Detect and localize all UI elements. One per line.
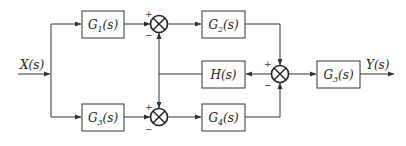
svg-text:+: + xyxy=(145,9,153,19)
svg-text:G4(s): G4(s) xyxy=(208,111,239,127)
svg-text:+: + xyxy=(264,59,272,69)
svg-text:G2(s): G2(s) xyxy=(208,18,239,34)
svg-text:G1(s): G1(s) xyxy=(88,18,119,34)
svg-text:H(s): H(s) xyxy=(210,68,237,82)
block-g1: G1(s) xyxy=(82,11,124,38)
wire-g2-to-s3 xyxy=(245,24,280,65)
block-g3-output: G3(s) xyxy=(317,61,360,88)
block-h: H(s) xyxy=(202,61,245,88)
svg-text:−: − xyxy=(264,80,272,90)
svg-text:−: − xyxy=(145,30,153,40)
block-diagram: X(s) G1(s) + − G2(s) + − H(s) xyxy=(0,0,406,146)
svg-text:G3(s): G3(s) xyxy=(323,68,354,84)
svg-text:+: + xyxy=(145,102,153,112)
block-g3-lower: G3(s) xyxy=(82,104,124,131)
input-label: X(s) xyxy=(19,58,44,72)
block-g4: G4(s) xyxy=(202,104,245,131)
output-label: Y(s) xyxy=(366,58,390,72)
wire-g4-to-s3 xyxy=(245,83,280,117)
summing-junction-2: + − xyxy=(145,102,168,134)
svg-text:−: − xyxy=(145,124,153,134)
svg-text:G3(s): G3(s) xyxy=(88,111,119,127)
block-g2: G2(s) xyxy=(202,11,245,38)
